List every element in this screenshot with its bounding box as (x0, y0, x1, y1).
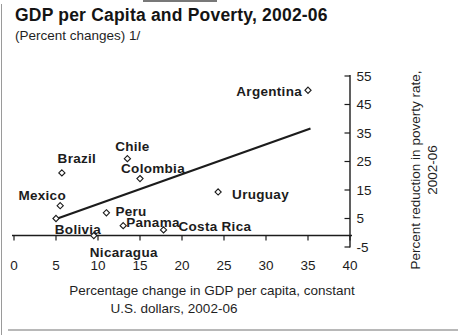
data-point-marker (57, 203, 63, 209)
y-tick-label: 35 (357, 126, 372, 141)
data-point-marker (305, 87, 311, 93)
y-tick-label: 15 (357, 183, 372, 198)
x-tick-label: 20 (174, 258, 189, 273)
data-point-label: Chile (115, 139, 150, 154)
y-tick-label: 5 (357, 211, 365, 226)
scanned-chart-page: GDP per Capita and Poverty, 2002-06 (Per… (0, 0, 461, 335)
y-axis-title-line2: 2002-06 (424, 55, 441, 285)
data-point-label: Brazil (58, 151, 97, 166)
x-tick-label: 25 (216, 258, 231, 273)
y-tick-label: 55 (357, 69, 372, 84)
x-tick-label: 35 (300, 258, 315, 273)
data-point-label: Argentina (236, 84, 302, 99)
y-axis-title-line1: Percent reduction in poverty rate, (407, 55, 424, 285)
x-axis-title-line1: Percentage change in GDP per capita, con… (0, 283, 424, 298)
data-point-label: Mexico (18, 188, 66, 203)
data-point-marker (53, 215, 59, 221)
x-tick-label: 40 (342, 258, 357, 273)
data-point-marker (103, 210, 109, 216)
y-tick-label: 25 (357, 154, 372, 169)
y-axis-title: Percent reduction in poverty rate, 2002-… (407, 55, 441, 285)
x-axis-title-line2: U.S. dollars, 2002-06 (0, 301, 348, 316)
data-point-marker (59, 170, 65, 176)
data-point-marker (137, 176, 143, 182)
x-tick-label: 0 (10, 258, 18, 273)
data-point-label: Costa Rica (179, 219, 252, 234)
x-tick-label: 5 (52, 258, 60, 273)
y-tick-label: 45 (357, 97, 372, 112)
data-point-label: Colombia (121, 161, 185, 176)
y-tick-label: -5 (357, 240, 369, 255)
data-point-label: Uruguay (232, 187, 289, 202)
data-point-label: Panama (126, 215, 180, 230)
data-point-marker (215, 189, 221, 195)
data-point-label: Nicaragua (90, 245, 158, 260)
x-tick-label: 30 (258, 258, 273, 273)
